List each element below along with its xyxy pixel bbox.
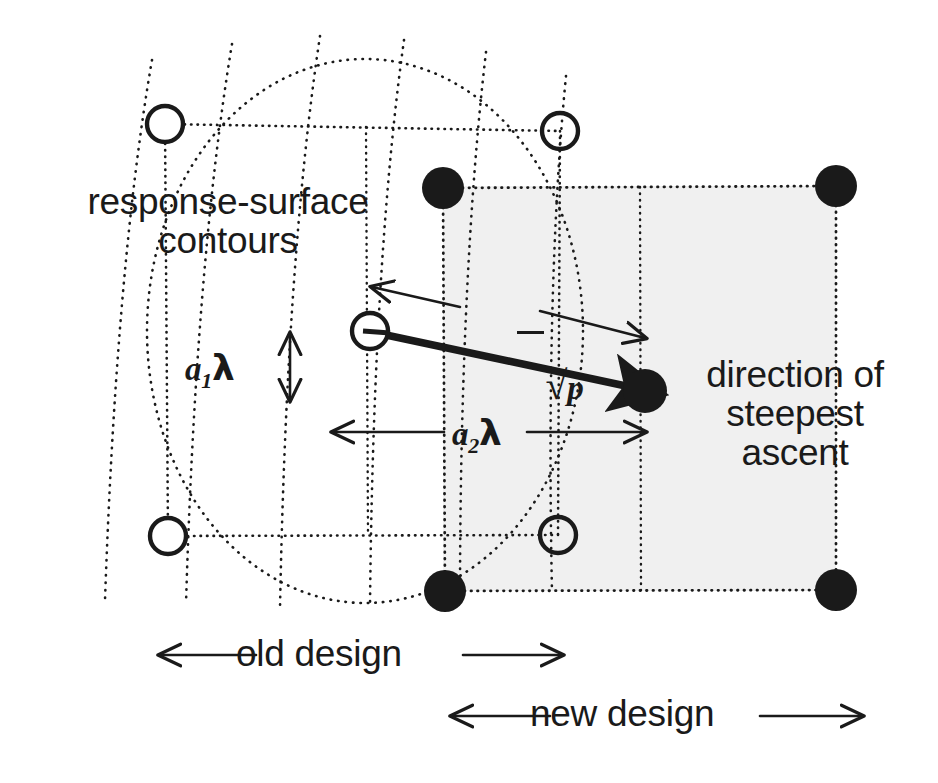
old-design-edge-bottom — [168, 535, 558, 536]
filled-circle-marker — [422, 167, 464, 209]
center-tick — [363, 331, 390, 333]
filled-circle-marker — [424, 570, 466, 612]
sqrt-p-variable: p — [567, 370, 583, 406]
sqrt-radical-group: √p — [498, 327, 584, 477]
new-design-center-marker — [623, 369, 667, 413]
contour-line — [280, 36, 320, 608]
radical-icon: √ — [546, 363, 568, 408]
diagram-canvas: response-surface contours direction of s… — [0, 0, 938, 783]
contour-line — [105, 60, 152, 600]
new-design-label: new design — [530, 694, 714, 733]
filled-circle-marker — [815, 165, 857, 207]
direction-of-steepest-ascent-label: direction of steepest ascent — [666, 355, 924, 473]
a2-subscript: 2 — [468, 433, 479, 458]
filled-circle-marker — [815, 569, 857, 611]
a1-lambda-label: a1λ — [185, 349, 234, 392]
a2-lambda-symbol: λ — [479, 412, 501, 453]
open-circle-marker — [147, 106, 183, 142]
old-design-label: old design — [236, 634, 402, 673]
a1-subscript: 1 — [201, 368, 212, 393]
a1-base: a — [185, 351, 201, 387]
a2-base: a — [452, 416, 468, 452]
a1-lambda-symbol: λ — [212, 347, 234, 388]
open-circle-marker — [150, 518, 186, 554]
sqrt-p-label: √p — [466, 292, 583, 512]
a2-lambda-label: a2λ — [452, 414, 501, 457]
radical-bar — [517, 331, 544, 334]
old-design-edge-top — [165, 124, 560, 131]
response-surface-contours-label: response-surface contours — [38, 182, 418, 260]
